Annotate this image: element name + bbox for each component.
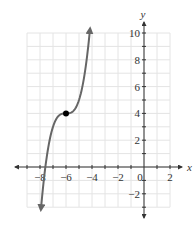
graph: −8−6−4−202−2246810xy bbox=[0, 0, 196, 226]
y-tick-label: 4 bbox=[135, 107, 141, 119]
grid bbox=[27, 33, 170, 207]
x-tick-label: 0 bbox=[137, 171, 143, 183]
x-tick-label: −2 bbox=[112, 171, 124, 183]
x-tick-label: −6 bbox=[60, 171, 72, 183]
y-tick-label: 2 bbox=[135, 134, 141, 146]
y-tick-label: 8 bbox=[135, 54, 141, 66]
inflection-point bbox=[63, 110, 69, 116]
x-axis-label: x bbox=[186, 161, 192, 173]
tick-labels: −8−6−4−202−2246810xy bbox=[34, 8, 192, 200]
x-tick-label: 2 bbox=[167, 171, 173, 183]
y-axis-label: y bbox=[140, 8, 146, 20]
y-tick-label: 6 bbox=[135, 81, 141, 93]
y-tick-label: −2 bbox=[128, 188, 140, 200]
y-tick-label: 10 bbox=[129, 27, 141, 39]
x-tick-label: −4 bbox=[86, 171, 98, 183]
